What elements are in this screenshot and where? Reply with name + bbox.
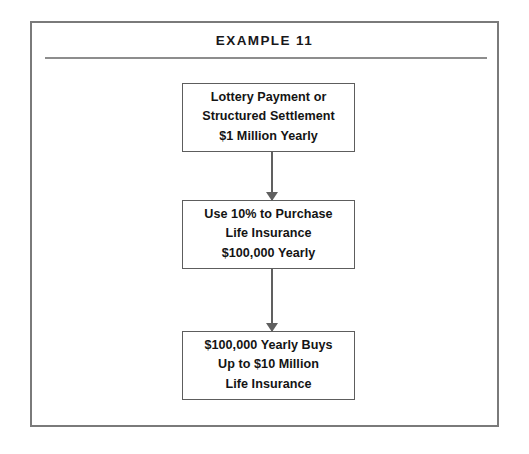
flow-node-3: $100,000 Yearly Buys Up to $10 Million L…: [182, 331, 355, 400]
flow-node-2-line-1: Use 10% to Purchase: [204, 205, 332, 225]
title-divider: [45, 57, 487, 59]
flow-node-2-line-2: Life Insurance: [225, 224, 311, 244]
flow-node-3-line-1: $100,000 Yearly Buys: [204, 336, 332, 356]
flow-arrow-1-icon: [265, 152, 279, 200]
flow-node-1-line-3: $1 Million Yearly: [219, 127, 318, 147]
flow-node-1: Lottery Payment or Structured Settlement…: [182, 83, 355, 152]
flow-node-2: Use 10% to Purchase Life Insurance $100,…: [182, 200, 355, 269]
flow-node-2-line-3: $100,000 Yearly: [222, 244, 316, 264]
flow-node-3-line-3: Life Insurance: [225, 375, 311, 395]
flow-node-3-line-2: Up to $10 Million: [218, 355, 319, 375]
flow-node-1-line-2: Structured Settlement: [202, 107, 335, 127]
figure-title: EXAMPLE 11: [30, 33, 499, 48]
flow-node-1-line-1: Lottery Payment or: [211, 88, 327, 108]
flow-arrow-2-shaft: [271, 269, 273, 331]
flow-arrow-2-icon: [265, 269, 279, 331]
